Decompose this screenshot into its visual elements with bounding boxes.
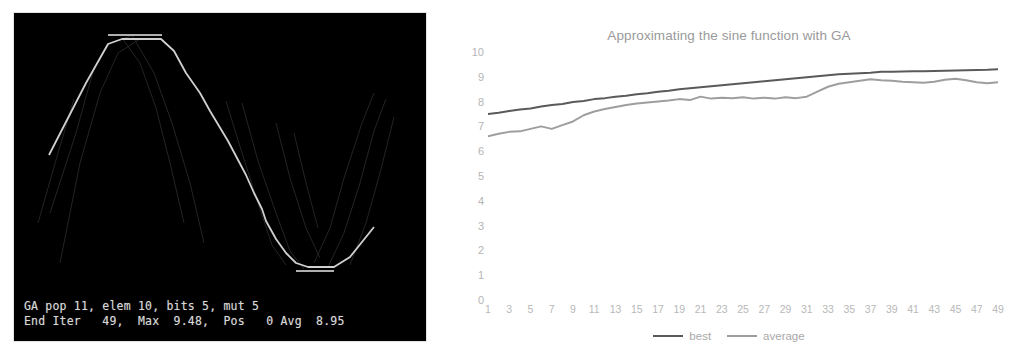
x-tick-label: 13 [610,303,622,315]
y-tick-label: 10 [472,46,484,58]
x-tick-label: 31 [801,303,813,315]
legend-swatch-icon [653,335,683,338]
chart-title: Approximating the sine function with GA [440,28,1018,43]
chart-panel: Approximating the sine function with GA … [440,0,1018,362]
screenshot-root: GA pop 11, elem 10, bits 5, mut 5 End It… [0,0,1018,362]
plot-area [488,52,998,300]
x-tick-label: 43 [928,303,940,315]
x-tick-label: 5 [528,303,534,315]
terminal-line-status: End Iter 49, Max 9.48, Pos 0 Avg 8.95 [24,314,345,328]
legend-item-average[interactable]: average [727,330,805,342]
series-plot [488,52,998,300]
x-tick-label: 37 [865,303,877,315]
series-line-average [488,79,998,137]
y-tick-label: 7 [478,120,484,132]
y-tick-label: 9 [478,71,484,83]
y-tick-label: 4 [478,195,484,207]
y-tick-label: 8 [478,96,484,108]
legend-item-best[interactable]: best [653,330,711,342]
x-tick-label: 23 [716,303,728,315]
y-axis-labels: 109876543210 [462,52,484,300]
x-tick-label: 7 [549,303,555,315]
y-tick-label: 6 [478,145,484,157]
y-tick-label: 3 [478,220,484,232]
x-tick-label: 49 [992,303,1004,315]
x-tick-label: 19 [673,303,685,315]
x-tick-label: 21 [695,303,707,315]
x-axis-labels: 1357911131517192123252729313335373941434… [488,303,998,319]
x-tick-label: 41 [907,303,919,315]
y-tick-label: 5 [478,170,484,182]
x-tick-label: 1 [485,303,491,315]
terminal-status-text: GA pop 11, elem 10, bits 5, mut 5 End It… [24,299,345,329]
x-tick-label: 11 [589,303,600,315]
x-tick-label: 3 [506,303,512,315]
y-tick-label: 1 [478,269,484,281]
x-tick-label: 25 [737,303,749,315]
x-tick-label: 9 [570,303,576,315]
legend-swatch-icon [727,335,757,338]
x-tick-label: 35 [843,303,855,315]
x-tick-label: 45 [950,303,962,315]
series-line-best [488,69,998,114]
legend-label: average [763,330,805,342]
sine-approximation-canvas [14,13,426,341]
chart-legend: bestaverage [440,330,1018,342]
x-tick-label: 47 [971,303,983,315]
y-tick-label: 0 [478,294,484,306]
x-tick-label: 17 [652,303,664,315]
x-tick-label: 27 [758,303,770,315]
x-tick-label: 39 [886,303,898,315]
terminal-output-panel: GA pop 11, elem 10, bits 5, mut 5 End It… [14,13,426,341]
x-tick-label: 33 [822,303,834,315]
x-tick-label: 15 [631,303,643,315]
legend-label: best [689,330,711,342]
terminal-line-params: GA pop 11, elem 10, bits 5, mut 5 [24,299,259,313]
y-tick-label: 2 [478,244,484,256]
canvas-background [14,13,426,341]
x-tick-label: 29 [780,303,792,315]
